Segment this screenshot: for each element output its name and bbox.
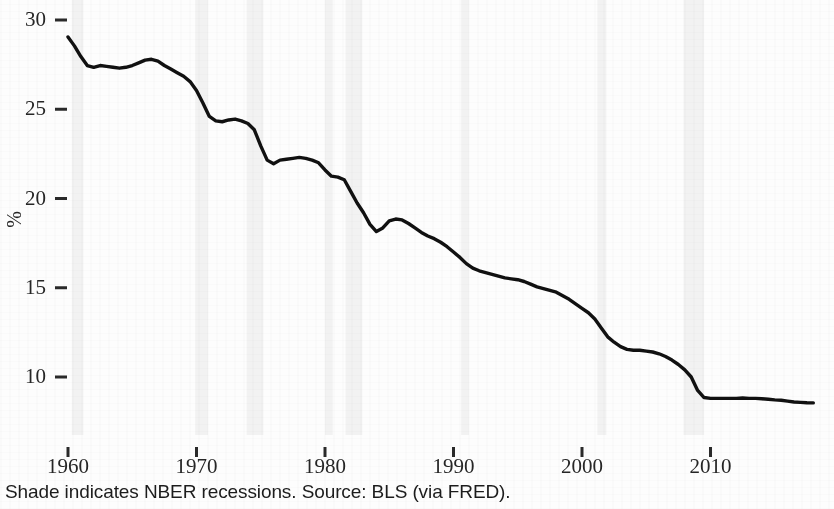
x-tick-label: 1980 bbox=[290, 456, 360, 477]
recession-band bbox=[72, 0, 84, 435]
recession-band bbox=[597, 0, 606, 435]
recession-band bbox=[195, 0, 208, 435]
recession-band bbox=[247, 0, 264, 435]
chart-figure: 3025201510 196019701980199020002010 % Sh… bbox=[0, 0, 834, 509]
x-tick-label: 1990 bbox=[419, 456, 489, 477]
x-tick-label: 2010 bbox=[676, 456, 746, 477]
line-chart-plot bbox=[0, 0, 834, 509]
y-tick-label: 15 bbox=[2, 277, 46, 298]
y-axis-title: % bbox=[3, 198, 26, 242]
y-tick-label: 30 bbox=[2, 9, 46, 30]
recession-band bbox=[346, 0, 363, 435]
recession-band bbox=[325, 0, 333, 435]
y-tick-label: 10 bbox=[2, 366, 46, 387]
x-tick-label: 1960 bbox=[33, 456, 103, 477]
y-tick-label: 25 bbox=[2, 98, 46, 119]
axis-tick-marks bbox=[55, 20, 711, 457]
chart-caption: Shade indicates NBER recessions. Source:… bbox=[5, 481, 511, 503]
recession-band bbox=[461, 0, 469, 435]
x-tick-label: 2000 bbox=[547, 456, 617, 477]
x-tick-label: 1970 bbox=[162, 456, 232, 477]
